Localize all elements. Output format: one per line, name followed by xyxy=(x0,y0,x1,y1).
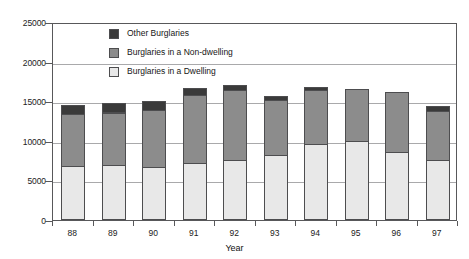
bar-segment xyxy=(142,110,166,168)
y-axis-tick-mark xyxy=(45,142,52,143)
legend-item-label: Burglaries in a Dwelling xyxy=(127,67,216,76)
bar-segment xyxy=(142,167,166,220)
x-axis-tick-label-91: 91 xyxy=(174,229,214,238)
x-axis-tick-label-90: 90 xyxy=(133,229,173,238)
y-axis-tick-mark xyxy=(45,181,52,182)
legend-item: Other Burglaries xyxy=(109,24,319,43)
bar-segment xyxy=(345,89,369,141)
bar-segment xyxy=(142,101,166,111)
bar-segment xyxy=(426,111,450,161)
bar-95 xyxy=(345,22,369,220)
stacked-bar-chart: 0500010000150002000025000 88899091929394… xyxy=(0,0,469,259)
x-axis-tick-mark xyxy=(457,221,458,226)
x-axis-tick-label-96: 96 xyxy=(376,229,416,238)
bar-segment xyxy=(264,155,288,220)
legend-item: Burglaries in a Dwelling xyxy=(109,62,319,81)
bar-segment xyxy=(426,160,450,220)
bar-segment xyxy=(61,166,85,220)
bar-97 xyxy=(426,22,450,220)
x-axis-tick-label-89: 89 xyxy=(93,229,133,238)
chart-legend: Other BurglariesBurglaries in a Non-dwel… xyxy=(109,24,319,81)
y-axis-tick-label: 5000 xyxy=(0,177,46,186)
x-axis-tick-label-92: 92 xyxy=(214,229,254,238)
bar-segment xyxy=(102,113,126,167)
y-axis-tick-label: 25000 xyxy=(0,19,46,28)
bar-segment xyxy=(426,106,450,112)
y-axis-tick-label: 0 xyxy=(0,217,46,226)
bar-segment xyxy=(304,90,328,145)
y-axis-tick-mark xyxy=(45,102,52,103)
bar-segment xyxy=(61,114,85,167)
legend-swatch-icon xyxy=(109,67,119,77)
x-axis-tick-mark xyxy=(255,221,256,226)
x-axis-tick-label-95: 95 xyxy=(336,229,376,238)
x-axis-tick-mark xyxy=(376,221,377,226)
legend-item: Burglaries in a Non-dwelling xyxy=(109,43,319,62)
bar-96 xyxy=(385,22,409,220)
bar-segment xyxy=(304,144,328,220)
bar-segment xyxy=(61,105,85,115)
legend-item-label: Other Burglaries xyxy=(127,29,189,38)
x-axis-tick-mark xyxy=(174,221,175,226)
legend-swatch-icon xyxy=(109,48,119,58)
y-axis-tick-mark xyxy=(45,221,52,222)
x-axis-tick-label-97: 97 xyxy=(417,229,457,238)
legend-item-label: Burglaries in a Non-dwelling xyxy=(127,48,233,57)
x-axis-title: Year xyxy=(0,243,469,253)
x-axis-tick-label-88: 88 xyxy=(52,229,92,238)
bar-segment xyxy=(102,103,126,114)
bar-segment xyxy=(264,100,288,156)
bar-segment xyxy=(385,152,409,220)
bar-segment xyxy=(223,160,247,220)
y-axis-tick-label: 20000 xyxy=(0,59,46,68)
bar-segment xyxy=(385,92,409,152)
x-axis-tick-mark xyxy=(295,221,296,226)
bar-segment xyxy=(345,141,369,220)
x-axis-tick-mark xyxy=(133,221,134,226)
bar-segment xyxy=(304,87,328,91)
y-axis-tick-label: 15000 xyxy=(0,98,46,107)
x-axis-tick-mark xyxy=(93,221,94,226)
bar-segment xyxy=(102,165,126,220)
bar-segment xyxy=(183,88,207,96)
y-axis-tick-mark xyxy=(45,63,52,64)
x-axis-tick-mark xyxy=(214,221,215,226)
bar-88 xyxy=(61,22,85,220)
bar-segment xyxy=(183,163,207,220)
bar-segment xyxy=(223,90,247,161)
y-axis-tick-label: 10000 xyxy=(0,138,46,147)
x-axis-tick-mark xyxy=(52,221,53,226)
x-axis-tick-label-93: 93 xyxy=(255,229,295,238)
x-axis-tick-mark xyxy=(417,221,418,226)
bar-segment xyxy=(223,85,247,91)
bar-segment xyxy=(264,96,288,101)
legend-swatch-icon xyxy=(109,29,119,39)
y-axis-tick-mark xyxy=(45,23,52,24)
bar-segment xyxy=(183,95,207,164)
x-axis-tick-mark xyxy=(336,221,337,226)
x-axis-tick-label-94: 94 xyxy=(295,229,335,238)
